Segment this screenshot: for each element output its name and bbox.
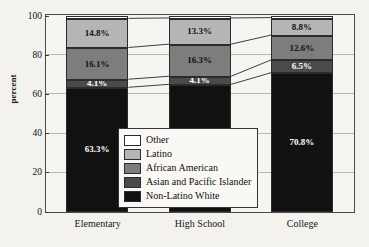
y-axis-ticks: 020406080100: [14, 0, 42, 247]
legend-swatch: [124, 135, 141, 146]
y-tick-label: 80: [16, 50, 42, 60]
bar-segment: 4.1%: [169, 77, 231, 85]
y-tick-mark: [45, 133, 49, 134]
legend-item: African American: [124, 161, 251, 175]
bar-college: 70.8%6.5%12.6%8.8%: [271, 16, 333, 212]
bar-segment: 14.8%: [66, 19, 128, 48]
segment-value-label: 13.3%: [187, 27, 212, 36]
y-tick-label: 20: [16, 167, 42, 177]
y-tick-mark: [45, 94, 49, 95]
legend-item: Other: [124, 133, 251, 147]
legend-label: Asian and Pacific Islander: [146, 177, 251, 187]
bar-segment: 6.5%: [271, 60, 333, 73]
bar-segment: 4.1%: [66, 80, 128, 88]
chart-legend: OtherLatinoAfrican AmericanAsian and Pac…: [118, 128, 258, 208]
legend-label: Non-Latino White: [146, 191, 219, 201]
connector-line: [231, 35, 271, 44]
y-tick-label: 0: [16, 207, 42, 217]
legend-label: African American: [146, 163, 218, 173]
stacked-bar-chart: percent 020406080100 63.3%4.1%16.1%14.8%…: [0, 0, 369, 247]
segment-value-label: 16.1%: [85, 60, 110, 69]
legend-swatch: [124, 177, 141, 188]
segment-value-label: 12.6%: [289, 44, 314, 53]
y-tick-mark: [45, 16, 49, 17]
y-tick-label: 40: [16, 128, 42, 138]
legend-label: Latino: [146, 149, 172, 159]
segment-value-label: 6.5%: [292, 62, 312, 71]
bar-segment: 70.8%: [271, 73, 333, 212]
legend-item: Non-Latino White: [124, 189, 251, 203]
bar-segment: 13.3%: [169, 19, 231, 45]
y-tick-mark: [45, 212, 49, 213]
segment-value-label: 70.8%: [289, 138, 314, 147]
segment-value-label: 63.3%: [85, 145, 110, 154]
segment-value-label: 14.8%: [85, 29, 110, 38]
bar-segment: 8.8%: [271, 19, 333, 36]
legend-swatch: [124, 149, 141, 160]
connector-line: [128, 84, 168, 87]
legend-swatch: [124, 163, 141, 174]
y-tick-mark: [45, 172, 49, 173]
x-tick-label: High School: [145, 218, 255, 229]
connector-line: [231, 73, 271, 85]
legend-item: Latino: [124, 147, 251, 161]
y-tick-label: 60: [16, 89, 42, 99]
bar-segment: 12.6%: [271, 36, 333, 61]
connector-line: [128, 44, 168, 47]
segment-value-label: 8.8%: [292, 23, 312, 32]
connector-line: [231, 60, 271, 77]
x-tick-label: College: [247, 218, 357, 229]
bar-segment: 16.1%: [66, 48, 128, 80]
x-tick-label: Elementary: [43, 218, 153, 229]
y-tick-label: 100: [16, 11, 42, 21]
bar-segment: [271, 16, 333, 19]
connector-line: [128, 76, 168, 79]
bar-segment: [169, 16, 231, 19]
bar-segment: [66, 16, 128, 19]
segment-value-label: 4.1%: [189, 77, 209, 85]
segment-value-label: 16.3%: [187, 56, 212, 65]
bar-segment: 16.3%: [169, 45, 231, 77]
legend-label: Other: [146, 135, 169, 145]
segment-value-label: 4.1%: [87, 80, 107, 88]
y-tick-mark: [45, 55, 49, 56]
legend-swatch: [124, 191, 141, 202]
legend-item: Asian and Pacific Islander: [124, 175, 251, 189]
